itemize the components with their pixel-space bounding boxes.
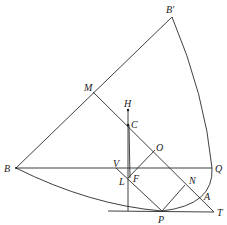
point-B-dot <box>15 167 17 169</box>
label-T: T <box>217 207 224 218</box>
label-H: H <box>123 98 132 109</box>
label-V: V <box>113 158 121 169</box>
label-F: F <box>132 173 140 184</box>
label-B-prime: B′ <box>166 4 175 15</box>
point-C-dot <box>127 124 129 126</box>
segment-C-L <box>129 125 130 178</box>
label-L: L <box>118 176 125 187</box>
label-Q: Q <box>215 163 223 174</box>
label-C: C <box>131 119 138 130</box>
curve-Bprime-to-P <box>162 17 212 211</box>
label-O: O <box>156 142 163 153</box>
label-P: P <box>157 214 164 225</box>
curve-B-to-P <box>16 168 162 211</box>
point-H-dot <box>127 109 129 111</box>
label-M: M <box>83 82 93 93</box>
geometry-diagram: B′ M H C O B V Q F L N A P T <box>0 0 227 225</box>
label-A: A <box>203 191 211 202</box>
label-N: N <box>188 175 197 186</box>
label-B: B <box>4 163 10 174</box>
